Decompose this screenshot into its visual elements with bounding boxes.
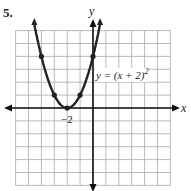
x-axis-label: x [180,101,187,115]
data-point [52,93,57,98]
equation-label: y = (x + 2)2 [95,67,148,82]
data-point [90,54,95,59]
graph: x y −2 y = (x + 2)2 [0,0,191,191]
x-axis [4,105,180,112]
data-point [78,93,83,98]
data-point [39,54,44,59]
curve-arrow-icon [97,18,103,25]
curve-arrow-icon [31,18,37,25]
data-point [65,105,70,110]
y-axis-label: y [88,4,95,18]
vertex-tick-label: −2 [61,113,73,125]
